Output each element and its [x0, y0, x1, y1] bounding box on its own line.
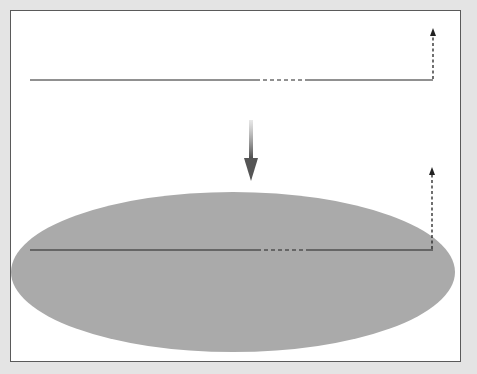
quarterly-ellipse	[11, 192, 455, 352]
quarterly-timeline	[0, 0, 455, 352]
figure	[0, 0, 477, 374]
cash-flow-diagram	[0, 0, 477, 374]
arrow-up-icon	[429, 167, 435, 175]
down-arrow-icon	[244, 120, 258, 181]
monthly-timeline	[0, 0, 436, 80]
arrow-up-icon	[430, 28, 436, 36]
